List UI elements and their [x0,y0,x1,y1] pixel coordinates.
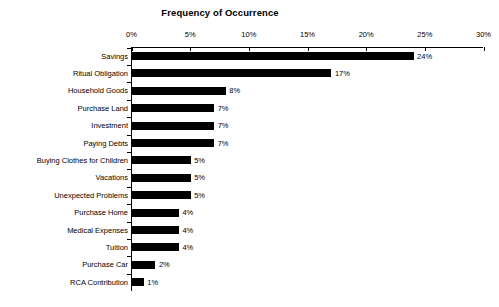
bar-value-label: 7% [218,122,229,130]
bar-value-label: 1% [147,279,158,287]
bar [132,226,179,234]
bar [132,52,414,60]
x-axis-tick-label: 0% [126,30,137,39]
x-axis-tick-label: 30% [476,30,491,39]
category-label: Unexpected Problems [54,192,128,200]
y-axis-tick [127,48,131,49]
x-axis-tick [366,47,367,51]
x-axis-tick-label: 20% [359,30,374,39]
y-axis-tick [127,222,131,223]
y-axis-tick [127,239,131,240]
bar [132,209,179,217]
bar-value-label: 7% [218,105,229,113]
bar-chart: Frequency of Occurrence 0%5%10%15%20%25%… [0,0,499,307]
chart-title: Frequency of Occurrence [0,7,440,18]
bar [132,278,144,286]
x-axis-tick [249,47,250,51]
bar [132,243,179,251]
y-axis-tick [127,169,131,170]
bar-value-label: 5% [194,157,205,165]
bar-value-label: 17% [335,70,350,78]
bar [132,87,226,95]
y-axis-tick [127,187,131,188]
x-axis-tick [190,47,191,51]
x-axis-tick-label: 10% [241,30,256,39]
y-axis-tick [127,256,131,257]
bar [132,156,191,164]
category-label: Paying Debts [83,140,128,148]
category-label: Purchase Land [78,105,128,113]
bar-value-label: 5% [194,192,205,200]
bar [132,174,191,182]
x-axis-tick [308,47,309,51]
category-label: Medical Expenses [67,227,128,235]
category-label: Buying Clothes for Children [37,157,128,165]
x-axis-tick-label: 25% [417,30,432,39]
y-axis-tick [127,65,131,66]
y-axis-tick [127,117,131,118]
y-axis-tick [127,135,131,136]
category-label: Investment [91,122,128,130]
bar [132,104,214,112]
x-axis-tick-label: 5% [185,30,196,39]
category-label: Vacations [96,174,128,182]
bar [132,122,214,130]
y-axis-tick [127,274,131,275]
x-axis-tick [132,47,133,51]
bar [132,261,155,269]
bar [132,69,331,77]
category-label: Tuition [106,244,128,252]
y-axis-tick [127,82,131,83]
bar-value-label: 24% [417,53,432,61]
bar-value-label: 4% [182,209,193,217]
bar-value-label: 7% [218,140,229,148]
category-label: RCA Contribution [70,279,128,287]
bar [132,191,191,199]
category-label: Ritual Obligation [73,70,128,78]
x-axis-tick-label: 15% [300,30,315,39]
category-label: Savings [101,53,128,61]
bar [132,139,214,147]
category-label: Purchase Car [82,261,128,269]
category-label: Purchase Home [74,209,128,217]
bar-value-label: 5% [194,174,205,182]
x-axis-tick [425,47,426,51]
bar-value-label: 4% [182,244,193,252]
y-axis-line [131,47,132,291]
y-axis-tick [127,152,131,153]
x-axis-tick [484,47,485,51]
bar-value-label: 4% [182,227,193,235]
category-label: Household Goods [68,87,128,95]
bar-value-label: 2% [159,261,170,269]
y-axis-tick [127,100,131,101]
bar-value-label: 8% [229,87,240,95]
y-axis-tick [127,204,131,205]
